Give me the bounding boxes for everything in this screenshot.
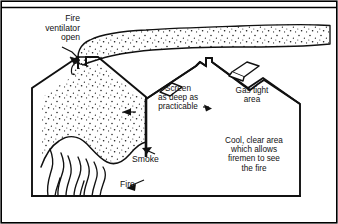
arrowhead-smoke <box>142 147 152 154</box>
smoke-plume-outside <box>78 25 330 66</box>
label-screen-as-deep-as-practicable: Screen as deep as practicable <box>140 84 216 112</box>
fire-flames <box>47 149 105 196</box>
label-cool-clear-area: Cool, clear area which allows firemen to… <box>206 136 302 173</box>
label-fire-ventilator-open: Fire ventilator open <box>6 14 80 43</box>
label-gas-tight-area: Gas tight area <box>216 86 288 104</box>
leader-ventilator <box>62 47 78 58</box>
label-smoke: Smoke <box>132 155 159 165</box>
label-fire: Fire <box>120 180 135 190</box>
figure-canvas: Fire ventilator open Screen as deep as p… <box>0 0 338 224</box>
